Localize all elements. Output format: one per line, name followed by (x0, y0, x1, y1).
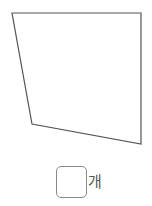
quadrilateral-figure (0, 0, 152, 150)
unit-label: 개 (88, 175, 102, 190)
answer-area: 개 (56, 166, 102, 198)
answer-input-box[interactable] (56, 166, 87, 198)
